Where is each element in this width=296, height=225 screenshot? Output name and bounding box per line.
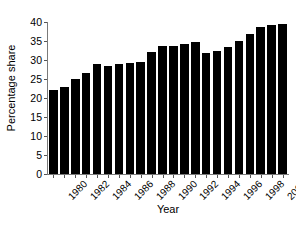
x-tick-mark	[152, 175, 153, 178]
bar	[158, 46, 167, 174]
y-tick-label: 15	[20, 112, 42, 122]
x-tick-mark	[53, 175, 54, 178]
x-tick-mark	[108, 175, 109, 178]
bar	[235, 41, 244, 174]
bar	[202, 53, 211, 174]
x-tick-mark	[228, 175, 229, 178]
bar	[126, 63, 135, 174]
bar	[278, 24, 287, 174]
x-tick-mark	[206, 175, 207, 178]
bar	[93, 64, 102, 174]
x-tick-mark	[272, 175, 273, 178]
x-axis-line	[47, 174, 289, 175]
x-tick-mark	[141, 175, 142, 178]
bar	[60, 87, 69, 174]
x-tick-mark	[239, 175, 240, 178]
bar	[169, 46, 178, 174]
y-tick-label: 20	[20, 93, 42, 103]
bar	[246, 34, 255, 174]
bar	[224, 47, 233, 174]
y-tick-label: 25	[20, 74, 42, 84]
bar	[180, 44, 189, 174]
y-tick-label: 10	[20, 131, 42, 141]
x-tick-mark	[250, 175, 251, 178]
bar	[267, 25, 276, 174]
bar	[213, 51, 222, 175]
x-tick-mark	[283, 175, 284, 178]
bar	[191, 42, 200, 174]
bar	[71, 79, 80, 174]
x-axis-title: Year	[48, 203, 288, 215]
x-tick-mark	[130, 175, 131, 178]
bar	[147, 52, 156, 174]
bar-series	[48, 22, 288, 174]
y-tick-label: 0	[20, 169, 42, 179]
x-tick-mark	[64, 175, 65, 178]
x-tick-mark	[173, 175, 174, 178]
x-tick-mark	[119, 175, 120, 178]
y-tick-label: 35	[20, 36, 42, 46]
y-tick-label: 30	[20, 55, 42, 65]
x-tick-mark	[86, 175, 87, 178]
bar	[136, 62, 145, 174]
x-tick-mark	[163, 175, 164, 178]
x-tick-mark	[195, 175, 196, 178]
bar	[82, 73, 91, 174]
x-tick-mark	[261, 175, 262, 178]
x-tick-mark	[217, 175, 218, 178]
x-tick-mark	[184, 175, 185, 178]
y-tick-label: 40	[20, 17, 42, 27]
plot-area	[48, 22, 288, 174]
bar	[104, 66, 113, 174]
x-tick-mark	[75, 175, 76, 178]
bar	[49, 90, 58, 174]
bar	[115, 64, 124, 174]
bar	[256, 27, 265, 174]
x-tick-mark	[97, 175, 98, 178]
bar-chart-figure: Percentage share 0510152025303540 198019…	[0, 0, 296, 225]
y-tick-label: 5	[20, 150, 42, 160]
